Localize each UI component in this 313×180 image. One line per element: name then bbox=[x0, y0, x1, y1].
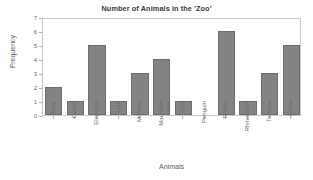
y-tick-label: 6 bbox=[34, 28, 37, 37]
chart-title: Number of Animals in the 'Zoo' bbox=[0, 4, 313, 13]
plot-area bbox=[42, 18, 301, 116]
y-tick-label: 4 bbox=[34, 56, 37, 65]
x-tick-label: Zebra bbox=[287, 101, 294, 147]
y-tick-label: 5 bbox=[34, 42, 37, 51]
y-tick-label: 1 bbox=[34, 98, 37, 107]
bar-chart-figure: Number of Animals in the 'Zoo' 01234567 … bbox=[0, 0, 313, 180]
x-axis-title: Animals bbox=[42, 163, 301, 170]
y-tick-label: 0 bbox=[34, 112, 37, 121]
bars-container bbox=[43, 19, 300, 115]
x-axis: BearCamelElephantLionMonkeyMountain Goat… bbox=[42, 116, 301, 162]
y-axis: 01234567 bbox=[0, 18, 42, 116]
y-tick-label: 3 bbox=[34, 70, 37, 79]
y-tick-label: 7 bbox=[34, 14, 37, 23]
x-tick-zebra: Zebra bbox=[279, 116, 301, 162]
y-axis-title: Frequency bbox=[9, 12, 16, 92]
x-tick-label-wrap: Zebra bbox=[267, 121, 313, 133]
y-tick-label: 2 bbox=[34, 84, 37, 93]
